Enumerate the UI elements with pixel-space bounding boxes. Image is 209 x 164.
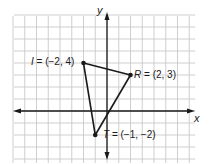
x-axis-left-arrow-icon [13, 109, 21, 114]
point-coords-I: = (−2, 4) [37, 56, 75, 67]
point-coords-R: = (2, 3) [144, 69, 176, 80]
point-coords-T: = (−1, −2) [112, 129, 156, 140]
vertex-dot-I [81, 61, 86, 66]
point-label-I: I = (−2, 4) [31, 57, 74, 67]
vertex-dot-T [93, 133, 98, 138]
y-axis-up-arrow-icon [105, 12, 110, 20]
point-name-I: I [31, 56, 34, 67]
coordinate-plane: y x I = (−2, 4) R = (2, 3) T = (−1, −2) [0, 0, 209, 164]
x-axis-label: x [194, 113, 200, 124]
point-name-T: T [103, 129, 109, 140]
y-axis-label: y [97, 5, 103, 16]
vertex-dot-R [128, 73, 133, 78]
point-name-R: R [134, 69, 141, 80]
point-label-R: R = (2, 3) [134, 70, 176, 80]
point-label-T: T = (−1, −2) [103, 130, 156, 140]
grid-lines [13, 15, 195, 163]
